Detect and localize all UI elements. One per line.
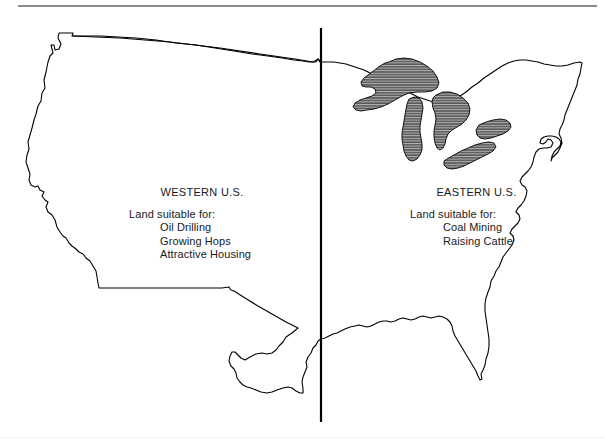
western-region-item-2: Growing Hops bbox=[129, 235, 275, 248]
eastern-region-title: EASTERN U.S. bbox=[410, 186, 543, 199]
western-region-item-3: Attractive Housing bbox=[129, 248, 275, 261]
eastern-region-item-1: Coal Mining bbox=[410, 221, 543, 234]
western-region-lead: Land suitable for: bbox=[129, 208, 275, 221]
lake-ontario-shape bbox=[476, 119, 511, 139]
bottom-edge-artifact bbox=[0, 437, 605, 438]
eastern-region-label-block: EASTERN U.S. Land suitable for: Coal Min… bbox=[410, 186, 543, 248]
western-region-title: WESTERN U.S. bbox=[129, 186, 275, 199]
figure-container: WESTERN U.S. Land suitable for: Oil Dril… bbox=[0, 0, 605, 441]
lake-michigan-shape bbox=[402, 97, 423, 161]
lake-huron-shape bbox=[432, 92, 470, 150]
eastern-region-lead: Land suitable for: bbox=[410, 208, 543, 221]
great-lakes-group bbox=[353, 58, 511, 169]
lake-superior-shape bbox=[353, 58, 439, 111]
lake-erie-shape bbox=[444, 142, 496, 169]
western-region-item-1: Oil Drilling bbox=[129, 221, 275, 234]
western-region-label-block: WESTERN U.S. Land suitable for: Oil Dril… bbox=[129, 186, 275, 261]
eastern-region-item-2: Raising Cattle bbox=[410, 235, 543, 248]
